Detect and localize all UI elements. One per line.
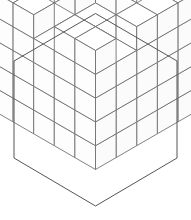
isometric-cube-drawing (0, 0, 191, 220)
cube-faces-group (0, 0, 191, 170)
isometric-figure (0, 0, 191, 220)
